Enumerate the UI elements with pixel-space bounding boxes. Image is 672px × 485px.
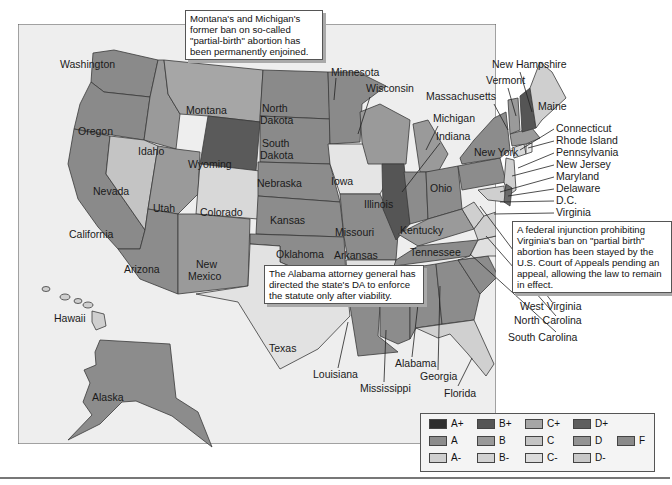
svg-text:Mexico: Mexico xyxy=(188,270,221,282)
legend-item-d-minus: D- xyxy=(573,452,606,463)
callout-virginia: A federal injunction prohibiting Virgini… xyxy=(512,221,672,293)
callout-montana-michigan: Montana's and Michigan's former ban on s… xyxy=(185,10,323,60)
svg-text:Maryland: Maryland xyxy=(556,170,599,182)
svg-text:D.C.: D.C. xyxy=(556,194,577,206)
callout-alabama: The Alabama attorney general has directe… xyxy=(264,265,424,304)
svg-text:Iowa: Iowa xyxy=(331,175,353,187)
svg-text:Rhode Island: Rhode Island xyxy=(556,134,618,146)
svg-text:South: South xyxy=(262,137,290,149)
svg-text:New: New xyxy=(196,258,217,270)
legend-item-b: B xyxy=(477,435,506,446)
svg-text:Louisiana: Louisiana xyxy=(313,368,358,380)
svg-text:Wyoming: Wyoming xyxy=(188,158,232,170)
svg-text:Kansas: Kansas xyxy=(270,214,305,226)
svg-text:New Hampshire: New Hampshire xyxy=(492,58,567,70)
legend-item-d-plus: D+ xyxy=(573,418,608,429)
state-alaska[interactable] xyxy=(68,340,212,447)
svg-text:Nevada: Nevada xyxy=(93,185,129,197)
legend-item-b-plus: B+ xyxy=(477,418,512,429)
svg-text:Dakota: Dakota xyxy=(260,149,293,161)
svg-text:Michigan: Michigan xyxy=(433,112,475,124)
svg-text:Missouri: Missouri xyxy=(335,226,374,238)
svg-text:Montana: Montana xyxy=(186,104,227,116)
svg-text:South Carolina: South Carolina xyxy=(508,331,578,343)
state-vermont[interactable] xyxy=(508,98,520,134)
legend-item-c-plus: C+ xyxy=(525,418,560,429)
svg-text:Vermont: Vermont xyxy=(486,74,525,86)
grade-legend: A+ A A- B+ B B- C+ C C- D+ D D- F xyxy=(420,413,655,472)
svg-text:Washington: Washington xyxy=(60,58,115,70)
svg-text:Colorado: Colorado xyxy=(200,206,243,218)
svg-text:Alaska: Alaska xyxy=(92,391,124,403)
legend-item-c: C xyxy=(525,435,554,446)
svg-text:Mississippi: Mississippi xyxy=(360,382,411,394)
svg-text:Illinois: Illinois xyxy=(364,198,393,210)
svg-text:Alabama: Alabama xyxy=(395,357,437,369)
svg-text:California: California xyxy=(69,228,114,240)
svg-text:Virginia: Virginia xyxy=(556,206,591,218)
svg-text:Kentucky: Kentucky xyxy=(400,224,444,236)
svg-text:Ohio: Ohio xyxy=(430,182,452,194)
svg-text:Dakota: Dakota xyxy=(260,114,293,126)
svg-text:Nebraska: Nebraska xyxy=(257,177,302,189)
svg-text:Maine: Maine xyxy=(538,100,567,112)
svg-text:Florida: Florida xyxy=(444,387,476,399)
legend-item-a-plus: A+ xyxy=(429,418,464,429)
svg-text:Texas: Texas xyxy=(269,342,296,354)
svg-text:Idaho: Idaho xyxy=(138,145,164,157)
svg-text:Massachusetts: Massachusetts xyxy=(426,90,496,102)
svg-text:North: North xyxy=(262,102,288,114)
svg-text:New York: New York xyxy=(474,146,519,158)
legend-item-d: D xyxy=(573,435,602,446)
bottom-rule xyxy=(0,477,670,479)
svg-text:Tennessee: Tennessee xyxy=(410,246,461,258)
svg-text:New Jersey: New Jersey xyxy=(556,158,612,170)
svg-text:Hawaii: Hawaii xyxy=(54,312,86,324)
legend-item-a-minus: A- xyxy=(429,452,461,463)
svg-text:Connecticut: Connecticut xyxy=(556,122,612,134)
legend-item-b-minus: B- xyxy=(477,452,509,463)
svg-text:Arkansas: Arkansas xyxy=(334,249,378,261)
svg-text:Delaware: Delaware xyxy=(556,182,601,194)
svg-text:Georgia: Georgia xyxy=(420,370,458,382)
svg-text:Utah: Utah xyxy=(153,202,175,214)
state-maine[interactable] xyxy=(530,62,566,128)
legend-item-c-minus: C- xyxy=(525,452,558,463)
svg-text:Indiana: Indiana xyxy=(436,130,471,142)
legend-item-a: A xyxy=(429,435,458,446)
svg-text:Oregon: Oregon xyxy=(78,125,113,137)
svg-text:Minnesota: Minnesota xyxy=(331,66,380,78)
svg-text:Arizona: Arizona xyxy=(124,263,160,275)
state-maryland[interactable] xyxy=(478,186,506,202)
legend-item-f: F xyxy=(617,435,645,446)
svg-text:Wisconsin: Wisconsin xyxy=(366,82,414,94)
svg-text:Pennsylvania: Pennsylvania xyxy=(556,146,619,158)
svg-text:Oklahoma: Oklahoma xyxy=(276,248,324,260)
